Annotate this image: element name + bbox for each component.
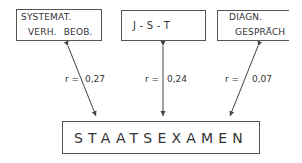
- predictor-box-diagn-gespraech: DIAGN. GESPRÄCH: [217, 10, 289, 41]
- predictor-label: J - S - T: [133, 20, 170, 31]
- predictor-label-line1: DIAGN.: [229, 12, 262, 22]
- correlation-value-systemat: 0,27: [85, 74, 105, 84]
- predictor-box-systemat-verh-beob: SYSTEMAT. VERH. BEOB.: [16, 9, 102, 41]
- criterion-box-staatsexamen: STAATSEXAMEN: [62, 121, 260, 154]
- predictor-label-line2: VERH. BEOB.: [28, 27, 93, 37]
- predictor-label-line1: SYSTEMAT.: [21, 12, 71, 22]
- predictor-label-line2: GESPRÄCH: [235, 27, 285, 37]
- correlation-value-diagn: 0,07: [252, 74, 272, 84]
- correlation-prefix-systemat: r =: [65, 74, 79, 84]
- predictor-box-jst: J - S - T: [121, 10, 206, 41]
- correlation-prefix-diagn: r =: [225, 74, 239, 84]
- correlation-value-jst: 0,24: [167, 74, 187, 84]
- correlation-prefix-jst: r =: [145, 74, 159, 84]
- criterion-label: STAATSEXAMEN: [63, 130, 259, 146]
